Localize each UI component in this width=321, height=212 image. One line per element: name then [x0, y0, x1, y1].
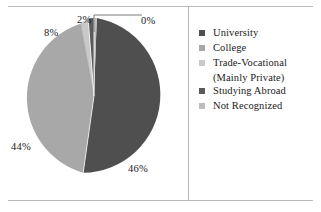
legend-swatch-icon [199, 60, 205, 66]
plot-area: 46% 44% 8% 2% 0% [0, 6, 188, 201]
legend-swatch-icon [199, 45, 205, 51]
legend-item-trade-vocational[interactable]: Trade-Vocational [199, 56, 319, 69]
legend-item-university[interactable]: University [199, 26, 319, 39]
pie-slice-college[interactable] [27, 24, 94, 173]
pie-chart-figure: 46% 44% 8% 2% 0% University College Trad… [0, 0, 321, 212]
slice-label-studying-abroad: 2% [77, 14, 91, 25]
legend-item-studying-abroad[interactable]: Studying Abroad [199, 84, 319, 97]
chart-legend: University College Trade-Vocational (Mai… [199, 26, 319, 114]
legend-label-university: University [213, 26, 258, 39]
legend-item-not-recognized[interactable]: Not Recognized [199, 99, 319, 112]
legend-swatch-icon [199, 103, 205, 109]
slice-label-not-recognized: 0% [141, 15, 155, 26]
legend-swatch-icon [199, 30, 205, 36]
legend-swatch-icon [199, 88, 205, 94]
leader-line-not-recognized [92, 6, 144, 32]
legend-label-college: College [213, 41, 246, 54]
pie-graphic [14, 16, 174, 176]
slice-label-trade-vocational: 8% [44, 27, 58, 38]
legend-label-not-recognized: Not Recognized [213, 99, 282, 112]
legend-item-college[interactable]: College [199, 41, 319, 54]
legend-label-studying-abroad: Studying Abroad [213, 84, 286, 97]
legend-label-trade-vocational: Trade-Vocational [213, 56, 287, 69]
slice-label-university: 46% [128, 163, 148, 174]
legend-sublabel-trade-vocational: (Mainly Private) [213, 71, 319, 84]
legend-divider [188, 6, 189, 201]
slice-label-college: 44% [11, 141, 31, 152]
